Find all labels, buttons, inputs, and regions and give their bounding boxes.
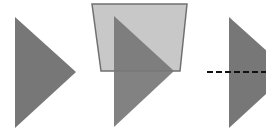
panel-triangle-with-dashed-line — [207, 17, 266, 128]
panel-plain-triangle — [15, 17, 76, 128]
panel-triangle-with-trapezoid — [92, 4, 187, 127]
diagram-canvas — [0, 0, 266, 135]
triangle-shape — [15, 17, 76, 128]
